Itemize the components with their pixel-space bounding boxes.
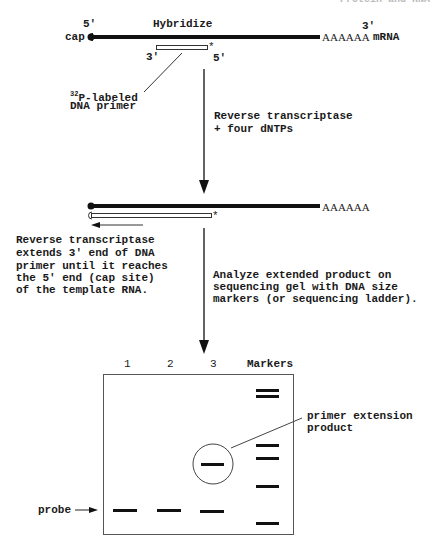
five-prime-label: 5' xyxy=(83,18,96,30)
rt-note-line4: the 5' end (cap site) xyxy=(16,272,155,284)
rt-label-line1: Reverse transcriptase xyxy=(214,110,353,122)
rt-note-line1: Reverse transcriptase xyxy=(16,234,155,246)
extension-direction-arrow xyxy=(91,222,143,228)
product-label-line1: primer extension xyxy=(307,410,413,422)
arrow-down-2 xyxy=(199,228,209,354)
analyze-line2: sequencing gel with DNA size xyxy=(213,281,398,293)
lane-label-1: 1 xyxy=(124,358,131,370)
primer-five-prime: 5' xyxy=(213,52,226,64)
cap-label: cap xyxy=(65,31,85,43)
primer-1 xyxy=(157,46,208,50)
hybridize-title: Hybridize xyxy=(153,18,212,30)
analyze-line1: Analyze extended product on xyxy=(213,269,391,281)
radiolabel-star: * xyxy=(208,41,215,53)
lane-label-2: 2 xyxy=(167,358,174,370)
rt-note-line2: extends 3' end of DNA xyxy=(16,247,155,259)
lane-label-3: 3 xyxy=(210,358,217,370)
polya-tail-2: AAAAAA xyxy=(322,201,370,213)
analyze-line3: markers (or sequencing ladder). xyxy=(213,293,418,305)
mrna-strand-1 xyxy=(88,33,321,41)
product-label-line2: product xyxy=(307,422,353,434)
lane-label-markers: Markers xyxy=(247,358,293,370)
mrna-label: mRNA xyxy=(373,31,399,43)
extended-primer xyxy=(89,212,212,219)
extension-product-band xyxy=(201,463,224,466)
rt-note-line5: of the template RNA. xyxy=(16,284,148,296)
polya-tail: AAAAAA xyxy=(322,31,370,43)
probe-arrow xyxy=(75,507,98,513)
primer-label-line2: DNA primer xyxy=(70,100,136,112)
arrow-down-1 xyxy=(199,69,209,194)
rt-note-line3: primer until it reaches xyxy=(16,260,168,272)
rt-label-line2: + four dNTPs xyxy=(214,123,293,135)
primer-three-prime: 3' xyxy=(146,51,159,63)
probe-label: probe xyxy=(38,504,71,516)
radiolabel-star-2: * xyxy=(212,210,219,222)
mrna-strand-2 xyxy=(88,203,321,210)
